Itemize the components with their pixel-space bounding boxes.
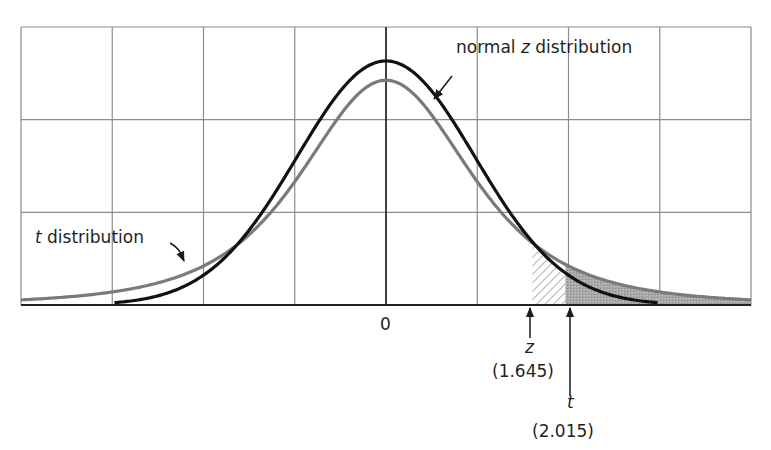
- normal-label-z: z: [521, 37, 530, 57]
- t-critical-symbol: t: [567, 394, 574, 411]
- normal-distribution-label: normal z distribution: [456, 39, 632, 56]
- distribution-chart: [0, 0, 771, 450]
- t-distribution-label: t distribution: [35, 229, 144, 246]
- zero-tick-label: 0: [380, 316, 391, 333]
- normal-label-arrow-icon: [434, 76, 452, 99]
- t-label-suffix: distribution: [42, 227, 144, 247]
- z-critical-value: (1.645): [492, 363, 554, 380]
- t-label-arrow-icon: [170, 243, 184, 261]
- normal-label-prefix: normal: [456, 37, 521, 57]
- z-tail-hatched-region: [532, 242, 565, 305]
- t-critical-value: (2.015): [532, 423, 594, 440]
- z-critical-symbol: z: [525, 339, 534, 356]
- normal-label-suffix: distribution: [530, 37, 632, 57]
- t-label-t: t: [35, 227, 42, 247]
